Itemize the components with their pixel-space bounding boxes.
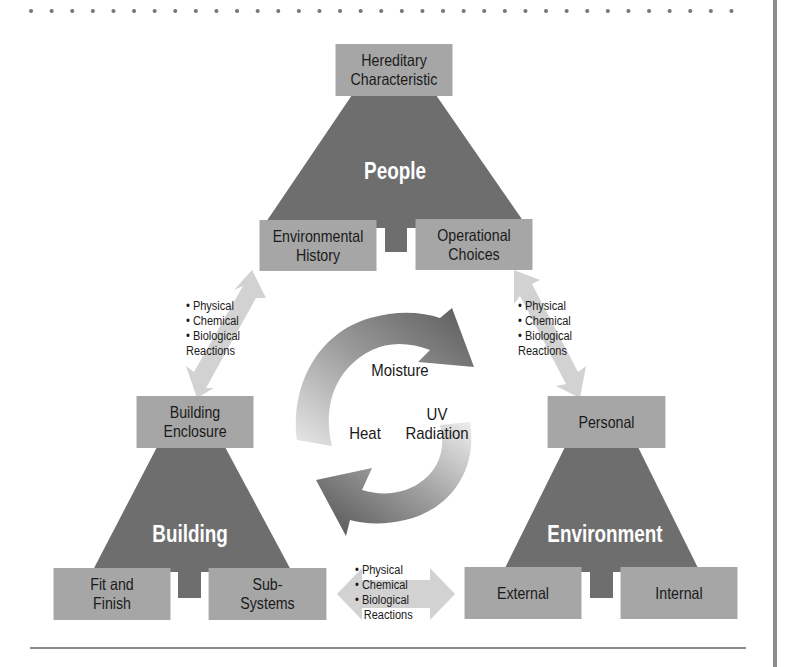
building-enclosure-label: Building Enclosure — [163, 403, 226, 441]
reaction-item: • Biological — [186, 329, 240, 344]
cycle-label-heat: Heat — [343, 424, 387, 443]
fit-and-finish-label: Fit and Finish — [90, 575, 133, 613]
environmental-history-label: Environmental History — [273, 227, 364, 265]
internal-box: Internal — [621, 567, 738, 619]
sub-systems-box: Sub- Systems — [209, 568, 327, 620]
reaction-item: • Physical — [186, 299, 240, 314]
environment-stem — [590, 566, 613, 598]
personal-label: Personal — [578, 413, 634, 432]
building-title: Building — [141, 521, 239, 548]
building-stem — [178, 568, 201, 598]
operational-choices-box: Operational Choices — [416, 219, 533, 270]
reaction-item: • Chemical — [518, 314, 572, 329]
people-stem — [385, 226, 407, 252]
hereditary-characteristic-label: Hereditary Characteristic — [351, 51, 438, 89]
reaction-item: Reactions — [518, 344, 572, 359]
reaction-item: • Chemical — [186, 314, 240, 329]
external-label: External — [497, 584, 549, 603]
building-triangle — [92, 447, 292, 572]
environment-triangle — [503, 447, 700, 572]
personal-box: Personal — [548, 396, 666, 448]
building-enclosure-box: Building Enclosure — [137, 396, 254, 448]
environment-title: Environment — [544, 521, 667, 548]
reaction-item: • Physical — [518, 299, 572, 314]
right-reactions-list: • Physical • Chemical • Biological React… — [518, 299, 572, 359]
reaction-item: • Chemical — [355, 578, 413, 593]
left-reactions-list: • Physical • Chemical • Biological React… — [186, 299, 240, 359]
cycle-label-uv-radiation: UV Radiation — [397, 405, 476, 443]
reaction-item: • Biological — [518, 329, 572, 344]
fit-and-finish-box: Fit and Finish — [54, 568, 171, 620]
bottom-reactions-list: • Physical • Chemical • Biological React… — [355, 563, 413, 623]
internal-label: Internal — [655, 584, 702, 603]
people-title: People — [346, 158, 444, 185]
reaction-item: Reactions — [186, 344, 240, 359]
operational-choices-label: Operational Choices — [437, 226, 510, 264]
hereditary-characteristic-box: Hereditary Characteristic — [336, 44, 453, 96]
sub-systems-label: Sub- Systems — [240, 575, 294, 613]
reaction-item: • Biological — [355, 593, 413, 608]
external-box: External — [465, 567, 582, 619]
environmental-history-box: Environmental History — [260, 220, 377, 271]
reaction-item: Reactions — [355, 608, 413, 623]
cycle-label-moisture: Moisture — [356, 361, 444, 380]
reaction-item: • Physical — [355, 563, 413, 578]
